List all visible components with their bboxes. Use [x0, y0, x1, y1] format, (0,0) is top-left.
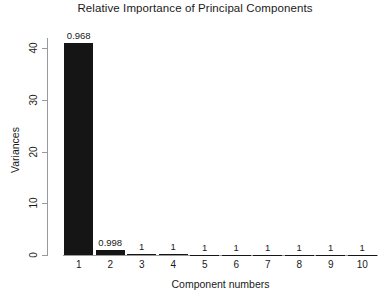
- y-tick-label: 0: [28, 235, 39, 275]
- y-tick-mark: [42, 203, 47, 204]
- bar: [316, 255, 345, 256]
- bar: [348, 255, 377, 256]
- x-tick-label: 10: [342, 259, 382, 270]
- bar: [64, 43, 93, 255]
- bar: [190, 255, 219, 256]
- x-axis-label: Component numbers: [63, 278, 378, 290]
- y-axis-label: Variances: [9, 90, 21, 210]
- y-tick-mark: [42, 100, 47, 101]
- y-tick-mark: [42, 48, 47, 49]
- y-tick-label: 20: [28, 132, 39, 172]
- bar: [159, 254, 188, 255]
- bar: [222, 255, 251, 256]
- bar: [285, 255, 314, 256]
- bar-value-label: 0.968: [49, 30, 109, 41]
- y-tick-mark: [42, 152, 47, 153]
- y-axis-line: [47, 38, 48, 256]
- bar-value-label: 1: [332, 242, 390, 253]
- y-tick-label: 10: [28, 183, 39, 223]
- chart-title: Relative Importance of Principal Compone…: [0, 2, 390, 14]
- bar: [253, 255, 282, 256]
- y-tick-label: 30: [28, 80, 39, 120]
- bar: [127, 254, 156, 255]
- y-tick-mark: [42, 255, 47, 256]
- chart-figure: Relative Importance of Principal Compone…: [0, 0, 390, 299]
- y-tick-label: 40: [28, 28, 39, 68]
